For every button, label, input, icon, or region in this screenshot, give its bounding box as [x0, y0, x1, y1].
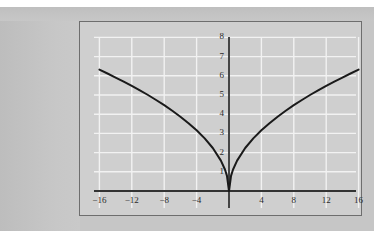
y-tick-label: 1: [213, 167, 224, 176]
y-tick-label: 8: [213, 32, 224, 41]
y-tick-label: 3: [213, 128, 224, 137]
page-shade-left: [0, 7, 80, 231]
x-tick-label: 12: [313, 196, 339, 205]
figure-frame: 12345678 −16−12−8−4481216: [79, 21, 362, 216]
x-tick-label: −4: [184, 196, 210, 205]
grid-lines-horizontal: [94, 37, 356, 171]
x-tick-label: 16: [346, 196, 372, 205]
page-shade-top: [0, 7, 374, 21]
scanned-figure-page: 12345678 −16−12−8−4481216: [0, 0, 374, 231]
x-tick-label: −16: [86, 196, 112, 205]
x-tick-label: −12: [119, 196, 145, 205]
y-tick-label: 7: [213, 52, 224, 61]
y-tick-label: 5: [213, 90, 224, 99]
y-tick-label: 2: [213, 148, 224, 157]
y-tick-label: 4: [213, 109, 224, 118]
y-tick-label: 6: [213, 71, 224, 80]
x-tick-label: 4: [248, 196, 274, 205]
x-tick-label: 8: [281, 196, 307, 205]
x-tick-label: −8: [151, 196, 177, 205]
